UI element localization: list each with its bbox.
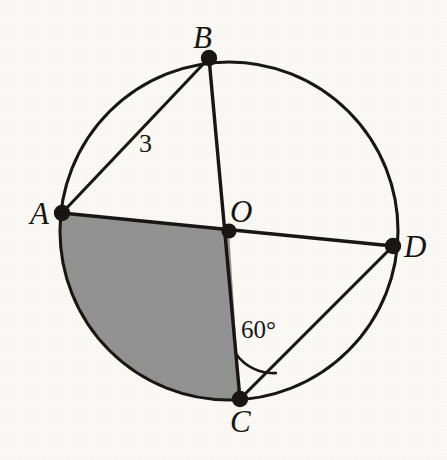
segment-A-B	[62, 58, 209, 213]
chord-ab-length-label: 3	[139, 131, 152, 157]
point-label-c: C	[230, 406, 251, 437]
point-label-a: A	[30, 198, 49, 229]
vertex-dot-D	[385, 238, 401, 254]
point-label-b: B	[193, 22, 212, 53]
vertex-dot-A	[54, 205, 70, 221]
angle-measure-label: 60°	[241, 317, 276, 342]
point-label-d: D	[404, 231, 426, 262]
geometry-canvas	[0, 0, 447, 460]
geometry-figure: A B C D O 3 60°	[0, 0, 447, 460]
center-label-o: O	[230, 196, 252, 227]
shaded-sector-AOC	[61, 213, 240, 399]
